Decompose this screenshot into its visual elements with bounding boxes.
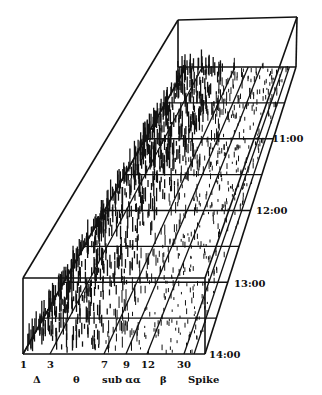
tick-12: 12 [141,359,155,370]
tick-7: 7 [101,359,108,370]
spectral-spikes [28,49,288,354]
tick-30: 30 [177,359,191,370]
tick-9: 9 [123,359,130,370]
band-spike: Spike [188,374,219,385]
frequency-tick-labels: 1 3 7 9 12 30 [20,359,191,370]
spectral-array-figure: 11:00 12:00 13:00 14:00 1 3 7 9 12 30 Δ … [0,0,322,395]
band-delta: Δ [33,374,41,385]
band-alpha: α [133,374,141,385]
band-sub-alpha: sub α [102,374,133,385]
time-label-13: 13:00 [234,278,266,289]
band-theta: θ [73,374,80,385]
time-label-14: 14:00 [209,349,241,360]
time-label-12: 12:00 [256,205,288,216]
band-labels: Δ θ sub α α β Spike [33,374,219,385]
tick-3: 3 [47,359,54,370]
tick-1: 1 [20,359,27,370]
time-label-11: 11:00 [272,133,304,144]
band-beta: β [160,374,167,385]
